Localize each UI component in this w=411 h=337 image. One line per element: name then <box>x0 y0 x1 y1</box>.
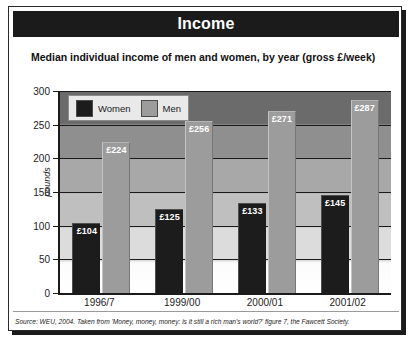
y-axis-tick-label: 100 <box>33 220 50 231</box>
chart-subtitle: Median individual income of men and wome… <box>31 51 391 64</box>
bar-value-label: £224 <box>106 146 126 155</box>
chart-area: pounds 050100150200250300 Women Men £104… <box>23 81 389 309</box>
legend-label-women: Women <box>98 103 131 114</box>
x-axis-tick-label: 1999/00 <box>164 297 200 308</box>
color-swatch-icon <box>76 100 93 117</box>
y-axis-ticks: 050100150200250300 <box>23 91 53 293</box>
title-banner: Income <box>13 11 399 37</box>
bar-value-label: £256 <box>189 125 209 134</box>
x-axis-ticks: 1996/71999/002000/012001/02 <box>58 295 389 311</box>
x-axis-tick-label: 1996/7 <box>84 297 115 308</box>
bar-men-1996-7: £224 <box>102 142 130 293</box>
chart-legend: Women Men <box>68 95 189 121</box>
bar-men-2000-01: £271 <box>268 111 296 293</box>
x-axis-tick-label: 2001/02 <box>330 297 366 308</box>
gridline <box>60 91 391 92</box>
x-axis-tick-label: 2000/01 <box>247 297 283 308</box>
bar-women-2001-02: £145 <box>321 195 349 293</box>
bar-women-1999-00: £125 <box>155 209 183 293</box>
bar-value-label: £104 <box>77 227 97 236</box>
y-axis-tick-label: 250 <box>33 119 50 130</box>
legend-item-men: Men <box>141 100 181 117</box>
y-axis-tick-label: 50 <box>39 254 50 265</box>
legend-item-women: Women <box>76 100 131 117</box>
color-swatch-icon <box>141 100 158 117</box>
bar-women-2000-01: £133 <box>238 203 266 293</box>
income-chart-figure: Income Median individual income of men a… <box>0 0 411 337</box>
y-axis-tick-label: 300 <box>33 86 50 97</box>
bar-value-label: £125 <box>160 213 180 222</box>
page-title: Income <box>177 16 234 32</box>
bar-women-1996-7: £104 <box>72 223 100 293</box>
bar-men-2001-02: £287 <box>351 100 379 293</box>
y-axis-tick-label: 150 <box>33 187 50 198</box>
y-axis-tick-label: 0 <box>44 288 50 299</box>
chart-card: Income Median individual income of men a… <box>8 6 402 331</box>
y-axis-tick-label: 200 <box>33 153 50 164</box>
bar-value-label: £287 <box>355 104 375 113</box>
legend-label-men: Men <box>163 103 181 114</box>
plot-area: Women Men £104£224£125£256£133£271£145£2… <box>58 91 391 295</box>
source-note: Source: WEU, 2004. Taken from 'Money, mo… <box>15 318 397 326</box>
gridline <box>60 125 391 126</box>
bar-value-label: £133 <box>242 207 262 216</box>
bar-men-1999-00: £256 <box>185 121 213 293</box>
bar-value-label: £145 <box>325 199 345 208</box>
source-divider <box>13 311 399 312</box>
bar-value-label: £271 <box>272 115 292 124</box>
